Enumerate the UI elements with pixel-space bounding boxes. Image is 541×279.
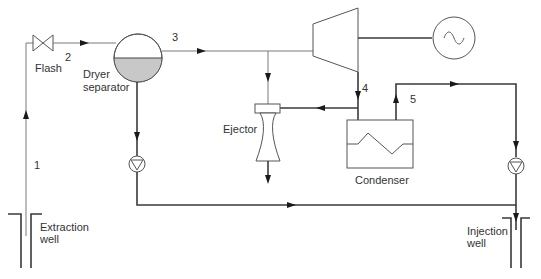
pipe-1 — [23, 43, 33, 236]
brine-line — [134, 82, 140, 156]
flow-arrow-icon — [265, 175, 271, 184]
flow-arrow-icon — [80, 40, 89, 46]
label-injection-well: well — [466, 237, 486, 249]
ejector — [255, 104, 280, 184]
flow-arrow-icon — [23, 110, 29, 119]
label-extraction: Extraction — [40, 221, 89, 233]
state-4: 4 — [362, 82, 368, 94]
flow-arrow-icon — [355, 91, 361, 100]
generator — [433, 17, 475, 59]
state-1: 1 — [34, 159, 40, 171]
state-2: 2 — [65, 51, 71, 63]
label-separator: separator — [83, 81, 130, 93]
label-dryer: Dryer — [83, 68, 110, 80]
reinjection-line — [137, 172, 516, 208]
flash-valve — [33, 35, 53, 51]
condenser — [347, 120, 413, 168]
flow-arrow-icon — [316, 105, 325, 111]
label-extraction-well: well — [39, 233, 59, 245]
pipe-4 — [355, 72, 361, 120]
flow-arrow-icon — [450, 81, 459, 87]
flow-arrow-icon — [197, 48, 206, 54]
pipe-2 — [53, 40, 116, 46]
label-ejector: Ejector — [223, 123, 258, 135]
flow-arrow-icon — [513, 141, 519, 150]
pipe-3 — [162, 48, 313, 104]
extraction-well — [8, 214, 42, 268]
state-5: 5 — [410, 93, 416, 105]
flow-arrow-icon — [265, 73, 271, 82]
state-3: 3 — [172, 31, 178, 43]
flow-arrow-icon — [393, 94, 399, 103]
turbine — [313, 8, 358, 72]
label-flash: Flash — [35, 62, 62, 74]
flow-arrow-icon — [134, 132, 140, 141]
flow-arrow-icon — [287, 202, 296, 208]
label-condenser: Condenser — [355, 174, 409, 186]
dryer-separator — [112, 34, 164, 84]
brine-pump — [129, 156, 145, 172]
geothermal-plant-diagram: Flash Dryer separator Ejector Condenser … — [0, 0, 541, 279]
ncg-line — [280, 105, 358, 111]
flow-arrow-icon — [513, 213, 519, 222]
label-injection: Injection — [467, 225, 508, 237]
